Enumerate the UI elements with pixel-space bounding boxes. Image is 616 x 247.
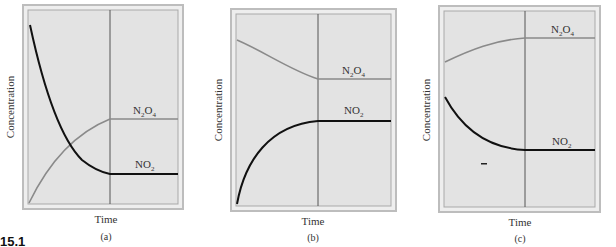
figure-number: 15.1 xyxy=(0,234,25,247)
panel-b-xlabel: Time xyxy=(302,215,325,227)
panel-a-caption: (a) xyxy=(100,231,111,243)
panel-b: N2O4 NO2 Concentration Time (b) xyxy=(212,9,396,244)
panel-c-plot-area xyxy=(444,11,595,207)
panel-a: N2O4 NO2 Concentration Time (a) xyxy=(4,5,183,243)
panel-b-plot-area xyxy=(236,14,391,206)
panel-c-print-artifact xyxy=(481,163,487,165)
panel-c-caption: (c) xyxy=(514,233,525,245)
panel-a-xlabel: Time xyxy=(95,213,118,225)
panel-c: N2O4 NO2 Concentration Time (c) xyxy=(420,6,600,245)
panel-a-ylabel: Concentration xyxy=(4,75,16,138)
panel-c-xlabel: Time xyxy=(509,216,532,228)
figure-canvas: N2O4 NO2 Concentration Time (a) N2O4 NO2… xyxy=(0,0,616,247)
panel-b-caption: (b) xyxy=(307,232,319,244)
panel-c-ylabel: Concentration xyxy=(420,78,432,141)
panel-b-ylabel: Concentration xyxy=(212,78,224,141)
